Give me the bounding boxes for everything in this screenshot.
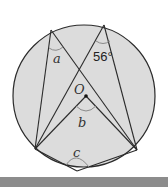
label-center-O: O xyxy=(74,82,85,97)
bottom-band xyxy=(0,177,168,187)
label-angle-a: a xyxy=(53,51,61,66)
center-point-O xyxy=(84,94,88,98)
label-angle-56: 56° xyxy=(93,49,113,64)
label-angle-b: b xyxy=(78,115,86,130)
circle-diagram: a 56° O b c xyxy=(0,0,168,187)
label-angle-c: c xyxy=(73,145,81,160)
diagram-svg: a 56° O b c xyxy=(0,0,168,187)
